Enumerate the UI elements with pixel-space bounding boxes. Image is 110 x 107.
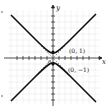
vertex-bottom-point	[51, 62, 54, 65]
vertex-bottom-label: (0, −1)	[68, 66, 89, 73]
corner-mark-top	[1, 11, 2, 12]
axes	[4, 5, 102, 106]
vertex-top-label: (0, 1)	[69, 47, 85, 54]
y-axis-label: y	[55, 4, 61, 12]
x-axis-label: x	[102, 58, 106, 66]
vertex-top-point	[51, 50, 54, 53]
origin-label: 0	[48, 59, 51, 65]
corner-mark-bottom	[1, 95, 2, 96]
hyperbola-graph: y x 0 (0, 1) (0, −1)	[0, 0, 110, 107]
